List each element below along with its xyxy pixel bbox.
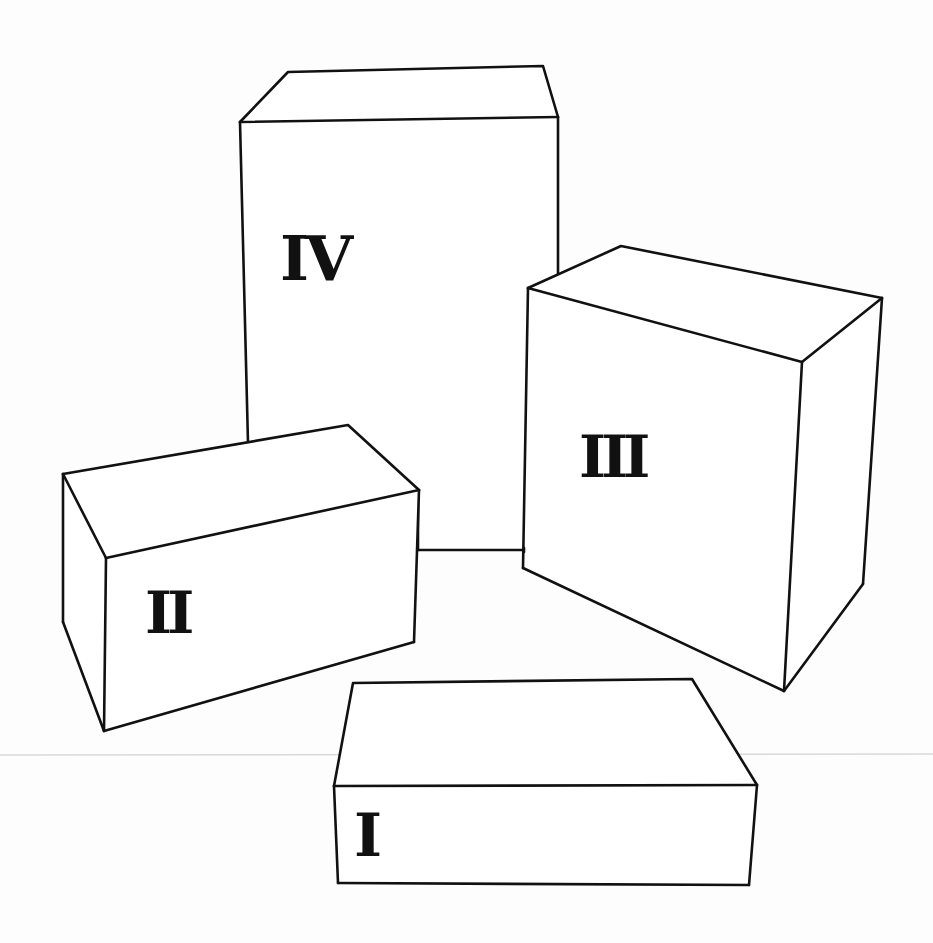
drawing-canvas: [0, 0, 933, 943]
box-1-top-front-edge: [334, 785, 757, 786]
box-2-label: II: [145, 584, 189, 642]
box-3: [523, 246, 882, 691]
box-4-label: IV: [280, 228, 349, 290]
box-1: [334, 679, 757, 885]
boxes-illustration: IV III II I: [0, 0, 933, 943]
box-1-label: I: [354, 805, 382, 865]
box-3-label: III: [579, 428, 645, 486]
